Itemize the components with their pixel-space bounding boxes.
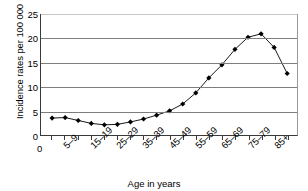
- x-tick-label: 15–19: [88, 124, 114, 150]
- x-tick-label: 25–29: [114, 124, 140, 150]
- x-tick-label: 35–39: [140, 124, 166, 150]
- x-tick-label: 45–49: [167, 124, 193, 150]
- incidence-rate-line-chart: Incidence rates per 100 000 0510152025 0…: [0, 0, 308, 191]
- x-tick-label: 75–79: [246, 124, 272, 150]
- x-axis-tick-labels: 05–915–1925–2935–3945–4955–5965–6975–798…: [0, 0, 308, 191]
- x-axis-title: Age in years: [0, 178, 308, 189]
- x-origin-label: 0: [37, 143, 42, 154]
- x-tick-label: 65–69: [219, 124, 245, 150]
- x-tick-label: 85+: [272, 132, 291, 151]
- x-tick-label: 5–9: [61, 132, 80, 151]
- x-tick-label: 55–59: [193, 124, 219, 150]
